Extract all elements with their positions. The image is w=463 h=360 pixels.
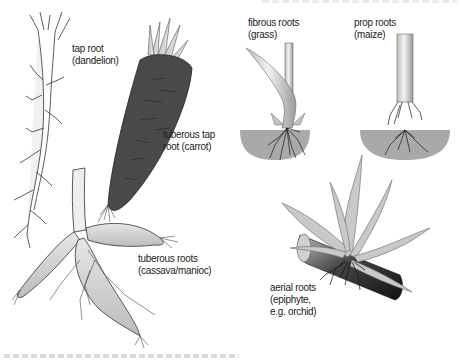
tap-root-label-line1: tap root [72,42,119,54]
aerial-roots-orchid-illustration [282,155,430,300]
tuberous-roots-label: tuberous roots (cassava/manioc) [138,252,211,276]
fibrous-roots-label-line1: fibrous roots [248,16,299,28]
tuberous-tap-root-label-line2: root (carrot) [163,140,215,152]
aerial-roots-label: aerial roots (epiphyte, e.g. orchid) [270,281,316,317]
prop-roots-label-line2: (maize) [354,28,396,40]
tuberous-roots-label-line2: (cassava/manioc) [138,264,211,276]
cropped-top-text [262,0,457,3]
cropped-caption [4,354,239,358]
prop-roots-label-line1: prop roots [354,16,396,28]
aerial-roots-label-line3: e.g. orchid) [270,305,316,317]
fibrous-roots-label-line2: (grass) [248,28,299,40]
tap-root-dandelion-illustration [14,12,70,248]
root-types-diagram: tap root (dandelion) tuberous tap root (… [0,0,463,360]
tuberous-tap-root-label: tuberous tap root (carrot) [163,128,215,152]
tuberous-tap-root-label-line1: tuberous tap [163,128,215,140]
tap-root-label-line2: (dandelion) [72,54,119,66]
aerial-roots-label-line2: (epiphyte, [270,293,316,305]
tap-root-label: tap root (dandelion) [72,42,119,66]
fibrous-roots-label: fibrous roots (grass) [248,16,299,40]
prop-roots-maize-illustration [360,34,450,160]
prop-roots-label: prop roots (maize) [354,16,396,40]
tuberous-roots-label-line1: tuberous roots [138,252,211,264]
aerial-roots-label-line1: aerial roots [270,281,316,293]
fibrous-roots-grass-illustration [240,43,310,160]
